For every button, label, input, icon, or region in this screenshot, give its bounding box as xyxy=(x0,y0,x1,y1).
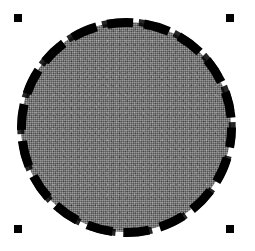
circle-shape[interactable] xyxy=(17,18,236,237)
circle-dashed-outline xyxy=(17,18,236,237)
selection-handle-top-left[interactable] xyxy=(14,14,22,22)
drawing-canvas[interactable] xyxy=(0,0,255,251)
selection-handle-bottom-left[interactable] xyxy=(14,225,22,233)
selection-handle-bottom-right[interactable] xyxy=(226,225,234,233)
selection-handle-top-right[interactable] xyxy=(226,14,234,22)
